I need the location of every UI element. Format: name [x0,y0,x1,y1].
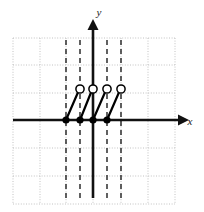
closed-point-1 [62,116,69,123]
closed-point-3 [89,116,96,123]
plot-background [0,0,204,212]
y-axis-label: y [96,6,102,18]
coordinate-plane-plot: x y [0,0,204,212]
closed-point-2 [76,116,83,123]
open-point-1 [76,85,84,93]
open-point-3 [103,85,111,93]
open-point-4 [117,85,125,93]
closed-point-4 [103,116,110,123]
x-axis-label: x [187,115,193,127]
open-point-2 [89,85,97,93]
graph-figure: x y [0,0,204,212]
